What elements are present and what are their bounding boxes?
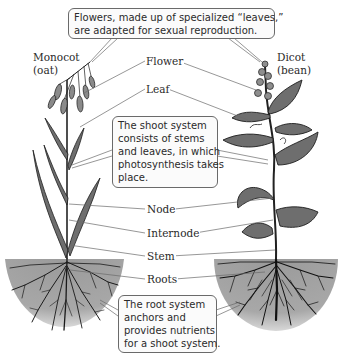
label-leaf: Leaf [145,83,170,95]
callout-shoot-line: photosynthesis takes [118,158,212,171]
callout-root-system: The root system anchors and provides nut… [118,295,217,353]
monocot-oat-plant-icon [33,62,100,259]
callout-shoot-line: The shoot system [118,119,212,132]
bean-leaf [223,134,273,147]
bean-leaf [275,132,318,165]
dicot-label: Dicot [277,51,311,64]
callout-root-line: provides nutrients [124,324,211,337]
label-flower: Flower [145,55,184,67]
dicot-example: (bean) [277,64,311,77]
monocot-label: Monocot [33,51,80,64]
dicot-bean-plant-icon [223,61,318,259]
bean-leaf [237,187,274,208]
dicot-title: Dicot (bean) [277,51,311,77]
monocot-example: (oat) [33,64,80,77]
callout-flowers-line: Flowers, made up of specialized “leaves,… [74,11,269,24]
plant-systems-diagram: Monocot (oat) Dicot (bean) Flower Leaf N… [0,0,342,358]
callout-root-line: for a shoot system. [124,337,211,350]
monocot-title: Monocot (oat) [33,51,80,77]
bean-leaf [242,223,273,238]
callout-root-line: anchors and [124,311,211,324]
bean-leaf [275,124,312,135]
callout-shoot-line: consists of stems [118,132,212,145]
callout-flowers: Flowers, made up of specialized “leaves,… [68,8,275,39]
callout-shoot-line: place. [118,171,212,184]
bean-leaf [276,207,318,228]
label-internode: Internode [146,227,200,239]
bean-leaf [232,112,270,122]
callout-shoot-line: and leaves, in which [118,145,212,158]
callout-shoot-system: The shoot system consists of stems and l… [112,116,218,188]
label-roots: Roots [146,273,178,285]
label-stem: Stem [146,250,176,262]
callout-flowers-line: are adapted for sexual reproduction. [74,24,269,37]
label-node: Node [146,203,176,215]
callout-root-line: The root system [124,298,211,311]
